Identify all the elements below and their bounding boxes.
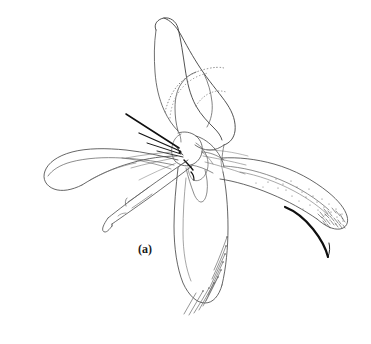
panel-label: (a) bbox=[138, 242, 152, 257]
figure-container: (a) bbox=[0, 0, 371, 344]
figure-background bbox=[0, 0, 371, 344]
genitalia-line-drawing bbox=[0, 0, 371, 344]
